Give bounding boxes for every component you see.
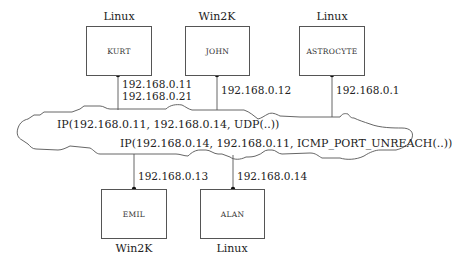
- ip-kurt-1: 192.168.0.11: [122, 78, 192, 90]
- host-alan[interactable]: ALAN: [200, 189, 265, 239]
- ip-alan: 192.168.0.14: [237, 170, 307, 182]
- ip-john: 192.168.0.12: [221, 84, 291, 96]
- host-astrocyte[interactable]: ASTROCYTE: [299, 26, 365, 76]
- os-label-astrocyte: Linux: [292, 10, 372, 23]
- os-label-alan: Linux: [192, 242, 272, 255]
- packet-icmp: IP(192.168.0.14, 192.168.0.11, ICMP_PORT…: [120, 137, 452, 150]
- host-name: ALAN: [221, 210, 245, 219]
- ip-emil: 192.168.0.13: [138, 170, 208, 182]
- os-label-kurt: Linux: [79, 10, 159, 23]
- os-label-emil: Win2K: [94, 242, 174, 255]
- host-emil[interactable]: EMIL: [101, 189, 167, 239]
- host-name: EMIL: [123, 210, 145, 219]
- host-name: ASTROCYTE: [306, 47, 357, 56]
- os-label-john: Win2K: [177, 10, 257, 23]
- packet-udp: IP(192.168.0.11, 192.168.0.14, UDP(..)): [57, 118, 279, 131]
- host-john[interactable]: JOHN: [185, 26, 250, 76]
- ip-kurt-2: 192.168.0.21: [122, 90, 192, 102]
- host-kurt[interactable]: KURT: [86, 26, 152, 76]
- ip-astrocyte: 192.168.0.1: [336, 84, 399, 96]
- network-cloud: [17, 105, 412, 160]
- host-name: JOHN: [206, 47, 229, 56]
- host-name: KURT: [107, 47, 130, 56]
